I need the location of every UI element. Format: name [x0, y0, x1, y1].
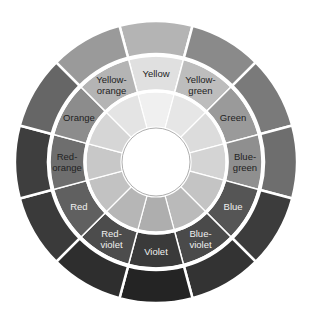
segment-label: Green: [220, 112, 246, 123]
segment-label: Blue-violet: [189, 228, 212, 250]
segment-label: Blue-green: [233, 151, 257, 173]
segment-label: Red-violet: [100, 228, 123, 250]
outer-ring-cell: [260, 126, 297, 199]
segment-label: Violet: [144, 246, 168, 257]
segment-label: Yellow: [142, 68, 169, 79]
segment-label: Orange: [63, 112, 95, 123]
outer-ring-cell: [15, 126, 52, 199]
center-hole: [122, 128, 190, 196]
segment-label: Yellow-orange: [96, 74, 126, 96]
color-wheel: YellowYellow-greenGreenBlue-greenBlueBlu…: [0, 0, 309, 321]
segment-label: Yellow-green: [185, 74, 215, 96]
outer-ring-cell: [120, 21, 193, 58]
outer-ring-cell: [120, 266, 193, 303]
segment-label: Red: [70, 201, 87, 212]
segment-label: Blue: [224, 201, 243, 212]
